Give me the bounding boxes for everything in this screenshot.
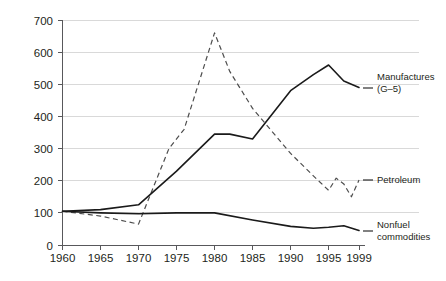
x-label-1980: 1980: [202, 252, 228, 264]
x-label-1970: 1970: [126, 252, 152, 264]
series-group: [63, 33, 360, 231]
chart-container: 700 600 500 400 300 200 100 0 1960 1965 …: [0, 0, 446, 281]
x-axis-tick-labels: 1960 1965 1970 1975 1980 1985 1990 1995 …: [50, 252, 372, 264]
label-petroleum: Petroleum: [377, 174, 420, 185]
label-leader-lines: [363, 88, 373, 231]
series-petroleum: [63, 33, 360, 224]
y-axis-tick-labels: 700 600 500 400 300 200 100 0: [34, 15, 53, 252]
gridlines: [62, 20, 419, 213]
x-label-1990: 1990: [278, 252, 304, 264]
x-label-1975: 1975: [164, 252, 190, 264]
x-label-1960: 1960: [50, 252, 76, 264]
line-chart: 700 600 500 400 300 200 100 0 1960 1965 …: [0, 0, 446, 281]
label-nonfuel-line1: Nonfuel: [377, 219, 410, 230]
label-manufactures-line2: (G–5): [377, 83, 401, 94]
series-nonfuel-commodities: [63, 211, 360, 230]
y-label-600: 600: [34, 47, 53, 59]
x-label-1995: 1995: [316, 252, 342, 264]
x-label-1999: 1999: [346, 252, 372, 264]
label-manufactures-line1: Manufactures: [377, 71, 435, 82]
series-manufactures-g5: [63, 65, 360, 211]
y-label-100: 100: [34, 207, 53, 219]
y-label-500: 500: [34, 79, 53, 91]
y-label-0: 0: [47, 240, 53, 252]
axes: [58, 20, 365, 250]
y-label-200: 200: [34, 175, 53, 187]
y-label-400: 400: [34, 111, 53, 123]
y-label-300: 300: [34, 143, 53, 155]
series-labels: Manufactures (G–5) Petroleum Nonfuel com…: [377, 71, 435, 242]
x-label-1985: 1985: [240, 252, 266, 264]
label-nonfuel-line2: commodities: [377, 231, 431, 242]
y-label-700: 700: [34, 15, 53, 27]
x-label-1965: 1965: [88, 252, 114, 264]
